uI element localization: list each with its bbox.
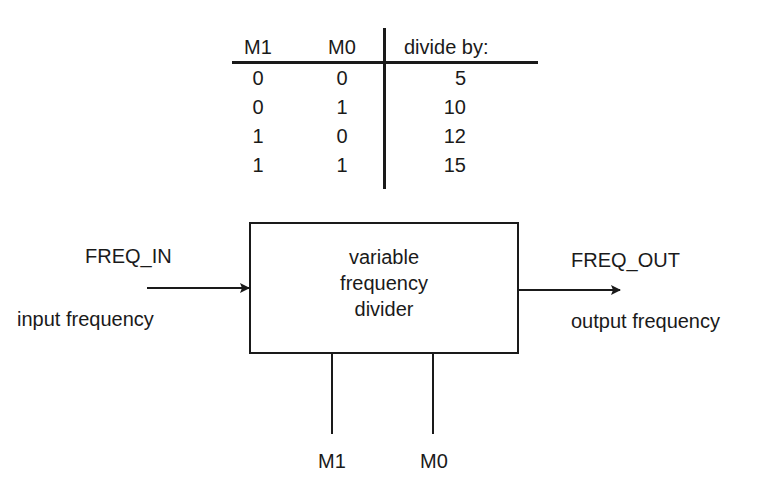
output-description: output frequency bbox=[571, 310, 720, 332]
input-description: input frequency bbox=[17, 308, 154, 330]
block-label-line: variable bbox=[250, 244, 518, 270]
block-label-line: frequency bbox=[250, 270, 518, 296]
input-signal-label: FREQ_IN bbox=[85, 245, 172, 267]
block-label-line: divider bbox=[250, 296, 518, 322]
control-label-m0: M0 bbox=[420, 450, 448, 472]
divider-block-label: variable frequency divider bbox=[250, 244, 518, 322]
block-diagram-graphics bbox=[0, 0, 781, 486]
control-label-m1: M1 bbox=[318, 450, 346, 472]
output-signal-label: FREQ_OUT bbox=[571, 249, 680, 271]
